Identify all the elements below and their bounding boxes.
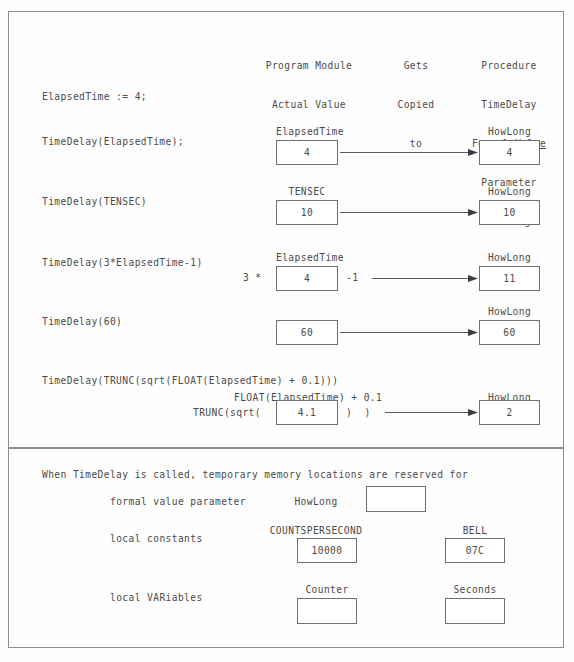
copy-arrow-0 [340, 148, 478, 157]
call-statement-3: TimeDelay(60) [42, 316, 122, 328]
assignment-statement: ElapsedTime := 4; [42, 91, 147, 103]
actual-suffix-2: -1 [346, 272, 358, 284]
actual-suffix-4: ) ) [346, 407, 371, 419]
diagram-page: Program Module Actual Value Gets Copied … [0, 0, 574, 662]
call-statement-0: TimeDelay(ElapsedTime); [42, 136, 184, 148]
actual-prefix-4: TRUNC(sqrt( [193, 407, 261, 419]
header-actual-line2: Actual Value [250, 98, 368, 111]
memory-cell-box-2-1 [445, 598, 505, 624]
copy-arrow-3 [340, 328, 478, 337]
memory-cell-label-2-1: Seconds [445, 584, 505, 596]
actual-value-box-2: 4 [276, 266, 338, 291]
memory-cell-box-1-1: 07C [445, 538, 505, 563]
memory-category-1: local constants [110, 533, 203, 545]
call-statement-1: TimeDelay(TENSEC) [42, 196, 147, 208]
formal-value-box-0: 4 [479, 140, 540, 165]
actual-value-box-0: 4 [276, 140, 338, 165]
header-actual-line1: Program Module [250, 59, 368, 72]
formal-value-box-3: 60 [479, 320, 540, 345]
actual-prefix-2: 3 * [243, 272, 262, 284]
formal-value-box-2: 11 [479, 266, 540, 291]
formal-value-box-1: 10 [479, 200, 540, 225]
header-copied-line2: Copied [380, 98, 452, 111]
call-statement-4: TimeDelay(TRUNC(sqrt(FLOAT(ElapsedTime) … [42, 375, 338, 387]
actual-value-box-3: 60 [276, 320, 338, 345]
memory-cell-label-1-0: COUNTSPERSECOND [254, 525, 378, 537]
memory-category-2: local VARiables [110, 592, 203, 604]
actual-value-box-1: 10 [276, 200, 338, 225]
formal-label-3: HowLong [479, 306, 540, 318]
memory-intro-text: When TimeDelay is called, temporary memo… [42, 469, 468, 481]
actual-value-box-4: 4.1 [276, 400, 338, 425]
actual-label-1: TENSEC [276, 186, 338, 198]
formal-label-0: HowLong [479, 126, 540, 138]
header-actual-value: Program Module Actual Value [250, 33, 368, 137]
memory-cell-box-0-0 [366, 486, 426, 512]
call-statement-2: TimeDelay(3*ElapsedTime-1) [42, 257, 203, 269]
header-formal-line1: Procedure [452, 59, 566, 72]
formal-label-1: HowLong [479, 186, 540, 198]
memory-cell-label-0-0: HowLong [285, 496, 347, 508]
copy-arrow-1 [340, 208, 478, 217]
memory-cell-label-1-1: BELL [444, 525, 506, 537]
memory-cell-label-2-0: Counter [297, 584, 357, 596]
formal-value-box-4: 2 [479, 400, 540, 425]
actual-label-0: ElapsedTime [276, 126, 338, 138]
header-copied-line1: Gets [380, 59, 452, 72]
memory-cell-box-2-0 [297, 598, 357, 624]
actual-label-2: ElapsedTime [276, 252, 338, 264]
memory-cell-box-1-0: 10000 [297, 538, 357, 563]
copy-arrow-2 [372, 274, 478, 283]
memory-category-0: formal value parameter [110, 496, 246, 508]
header-formal-line2: TimeDelay [452, 98, 566, 111]
copy-arrow-4 [385, 408, 478, 417]
formal-label-2: HowLong [479, 252, 540, 264]
